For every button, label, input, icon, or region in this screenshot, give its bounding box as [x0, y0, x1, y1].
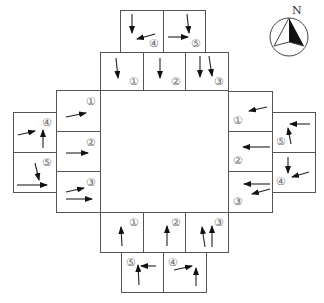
arrow-left-turn-icon: [66, 113, 86, 117]
arrow-right-turn-icon: [209, 56, 212, 76]
arrow-right-turn-icon: [35, 163, 39, 180]
arrow-through-left-icon: [121, 227, 122, 246]
arrow-left-icon: [137, 34, 155, 39]
arrow-left-turn-icon: [288, 128, 291, 144]
arrow-left-turn-icon: [138, 265, 139, 285]
arrow-left-turn-icon: [249, 107, 267, 111]
arrow-left-turn-icon: [66, 188, 84, 192]
arrow-left-turn-icon: [174, 266, 192, 270]
phase-diagram: N ④ ⑤ ① ② ③ ① ② ③ ④ ⑤ ① ② ③: [0, 0, 324, 303]
arrow-left-turn-icon: [252, 189, 270, 194]
arrow-left-turn-icon: [292, 172, 309, 177]
arrow-through-left-icon: [202, 227, 205, 247]
arrow-through-right-icon: [116, 58, 118, 78]
arrow-left-turn-icon: [18, 131, 35, 135]
movement-arrows: [0, 0, 324, 303]
arrow-right-turn-icon: [187, 14, 189, 33]
